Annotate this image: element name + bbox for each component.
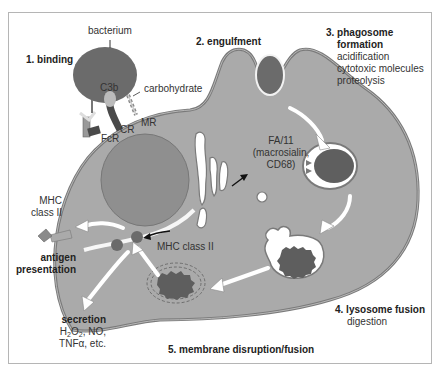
phagosome-item-acidification: acidification	[337, 51, 389, 63]
step-phagosome-title-2: formation	[337, 39, 383, 51]
step-binding-label: 1. binding	[26, 54, 73, 66]
fa11-label-3: CD68)	[251, 159, 311, 171]
receptor-mr	[128, 95, 136, 115]
engulfed-bacterium	[256, 55, 284, 95]
step-lysosome-title: 4. lysosome fusion	[335, 304, 425, 316]
fcr-label: FcR	[101, 133, 119, 145]
nucleus	[101, 134, 189, 226]
antigen-label-1: antigen	[10, 252, 76, 264]
phagosome-item-cytotoxic: cytotoxic molecules	[337, 63, 424, 75]
secretion-line-3: TNFα, etc.	[50, 338, 106, 350]
fa11-label-1: FA/11	[251, 135, 311, 147]
receptor-fcr	[80, 100, 101, 137]
mhc-vesicle-left	[111, 239, 123, 251]
phagosome-item-proteolysis: proteolysis	[337, 75, 385, 87]
bacterium-label: bacterium	[88, 25, 132, 37]
mhc-outside-label-1: MHC	[10, 195, 62, 207]
secretion-line-2: H2O2, NO,	[50, 326, 106, 338]
antigen-label-2: presentation	[10, 264, 76, 276]
fa11-label-2: (macrosialin,	[249, 147, 313, 159]
step-phagosome-title-1: 3. phagosome	[326, 27, 393, 39]
c3b-label: C3b	[100, 82, 118, 94]
secretion-title: secretion	[50, 314, 106, 326]
cr-label: CR	[120, 124, 134, 136]
step-membrane-label: 5. membrane disruption/fusion	[168, 344, 314, 356]
carbohydrate-label: carbohydrate	[144, 83, 202, 95]
mhc-vesicle-right	[131, 231, 143, 243]
step-engulfment-label: 2. engulfment	[196, 36, 261, 48]
mhc-inside-label: MHC class II	[157, 241, 214, 253]
lysosome-item-digestion: digestion	[347, 316, 387, 328]
mhc-outside-label-2: class II	[10, 207, 62, 219]
mr-label: MR	[141, 117, 157, 129]
